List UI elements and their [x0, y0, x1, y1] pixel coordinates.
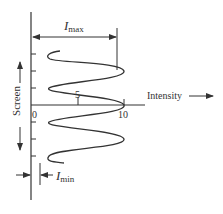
- screen-label: Screen: [10, 86, 22, 116]
- tick-label-10: 10: [118, 109, 128, 120]
- intensity-label: Intensity: [147, 90, 182, 101]
- intensity-curve: [48, 51, 125, 163]
- imin-label: Imin: [55, 168, 75, 184]
- imax-label: Imax: [63, 18, 84, 34]
- intensity-diagram: 0 5 10 Imax Intensity Screen Imin: [0, 0, 223, 214]
- tick-label-0: 0: [32, 109, 37, 120]
